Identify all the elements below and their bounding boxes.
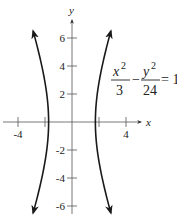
y-tick-label: 2 xyxy=(60,88,66,100)
eq-minus: − xyxy=(132,72,140,87)
equation-annotation: x 2 3 − y 2 24 = 1 xyxy=(111,60,177,98)
eq-den2: 24 xyxy=(143,83,157,98)
y-axis-label: y xyxy=(68,4,74,16)
x-tick-label: 4 xyxy=(123,128,129,140)
eq-sup2: 2 xyxy=(151,60,156,71)
hyperbola-chart: -44642-2-4-6 x y x 2 3 − y 2 24 = 1 xyxy=(0,0,177,215)
eq-num2: y xyxy=(141,64,150,79)
eq-den1: 3 xyxy=(116,83,123,98)
y-tick-label: -4 xyxy=(56,172,66,184)
axes xyxy=(3,20,141,214)
y-tick-label: -2 xyxy=(56,144,65,156)
y-tick-label: -6 xyxy=(56,200,66,212)
y-tick-label: 6 xyxy=(60,32,66,44)
eq-sup1: 2 xyxy=(121,60,126,71)
x-tick-label: -4 xyxy=(13,128,23,140)
eq-num1: x xyxy=(112,64,120,79)
eq-rhs: = 1 xyxy=(161,72,177,87)
x-axis-label: x xyxy=(145,116,151,128)
y-tick-label: 4 xyxy=(60,60,66,72)
